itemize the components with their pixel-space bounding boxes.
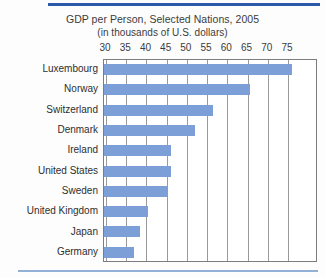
bar-row: [104, 162, 317, 182]
bar-row: [104, 101, 317, 121]
bar: [104, 125, 195, 136]
x-tick-label: 70: [261, 42, 272, 53]
category-label: Norway: [8, 83, 98, 95]
chart-subtitle: (in thousands of U.S. dollars): [0, 26, 325, 39]
chart-title: GDP per Person, Selected Nations, 2005: [0, 13, 325, 26]
x-axis-tick-labels: 30354045505560657075: [103, 42, 318, 58]
chart-figure: GDP per Person, Selected Nations, 2005 (…: [0, 0, 325, 278]
x-tick-label: 65: [241, 42, 252, 53]
bar: [104, 166, 171, 177]
x-tick-label: 55: [201, 42, 212, 53]
bar: [104, 226, 140, 237]
x-tick-label: 45: [160, 42, 171, 53]
category-label: Sweden: [8, 185, 98, 197]
x-tick-label: 60: [221, 42, 232, 53]
bar: [104, 64, 292, 75]
x-tick-label: 40: [140, 42, 151, 53]
category-label: Ireland: [8, 144, 98, 156]
bar: [104, 206, 148, 217]
bar-row: [104, 80, 317, 100]
bar: [104, 186, 167, 197]
category-label: Germany: [8, 246, 98, 258]
chart-body: 30354045505560657075 LuxembourgNorwaySwi…: [8, 42, 318, 266]
bar: [104, 84, 250, 95]
x-tick-label: 30: [99, 42, 110, 53]
x-tick-label: 75: [281, 42, 292, 53]
category-label: Switzerland: [8, 104, 98, 116]
x-tick-label: 35: [120, 42, 131, 53]
title-block: GDP per Person, Selected Nations, 2005 (…: [0, 13, 325, 39]
bar-row: [104, 182, 317, 202]
bottom-divider-rule: [18, 270, 318, 272]
category-label: United States: [8, 165, 98, 177]
category-label: United Kingdom: [8, 205, 98, 217]
bar-row: [104, 60, 317, 80]
top-divider-rule: [48, 3, 320, 6]
category-label: Luxembourg: [8, 63, 98, 75]
bar-row: [104, 202, 317, 222]
category-label: Denmark: [8, 124, 98, 136]
x-tick-label: 50: [180, 42, 191, 53]
bar: [104, 105, 213, 116]
bar-row: [104, 121, 317, 141]
y-axis-category-labels: LuxembourgNorwaySwitzerlandDenmarkIrelan…: [8, 59, 100, 262]
bar-row: [104, 243, 317, 262]
plot-area: [103, 59, 317, 262]
bar: [104, 247, 134, 258]
bar: [104, 145, 171, 156]
category-label: Japan: [8, 226, 98, 238]
bar-row: [104, 141, 317, 161]
bar-row: [104, 222, 317, 242]
